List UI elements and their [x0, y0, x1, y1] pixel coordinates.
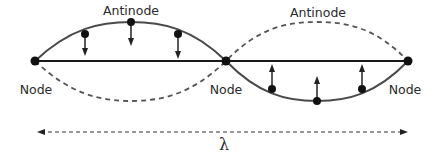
- node-dot-left: [31, 57, 40, 66]
- point-dot: [358, 85, 366, 93]
- node-label-right: Node: [389, 82, 422, 97]
- node-label-middle: Node: [210, 82, 243, 97]
- antinode-label-right: Antinode: [290, 5, 346, 20]
- antinode-label-left: Antinode: [103, 3, 159, 18]
- wavelength-label: λ: [219, 135, 229, 154]
- point-dot: [313, 97, 321, 105]
- point-dot: [127, 18, 135, 26]
- diagram-canvas: Antinode Antinode Node Node Node λ: [0, 0, 438, 160]
- node-dot-middle: [222, 57, 231, 66]
- node-label-left: Node: [20, 82, 53, 97]
- standing-wave-diagram: Antinode Antinode Node Node Node λ: [0, 0, 438, 160]
- point-dot: [81, 30, 89, 38]
- node-dot-right: [404, 57, 413, 66]
- point-dot: [174, 30, 182, 38]
- point-dot: [268, 85, 276, 93]
